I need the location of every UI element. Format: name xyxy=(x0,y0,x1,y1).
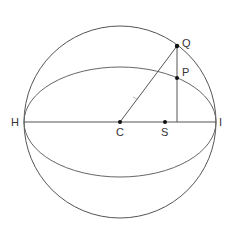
point-C xyxy=(118,120,122,124)
label-S: S xyxy=(161,127,168,138)
label-Q: Q xyxy=(182,38,191,49)
tick-mark xyxy=(133,97,137,99)
label-H: H xyxy=(11,117,19,128)
point-Q xyxy=(175,44,179,48)
sphere-diagram xyxy=(0,0,236,233)
label-P: P xyxy=(182,67,189,78)
line-CQ xyxy=(120,46,177,122)
point-P xyxy=(175,76,179,80)
label-C: C xyxy=(116,127,124,138)
label-I: I xyxy=(219,117,222,128)
point-S xyxy=(163,120,167,124)
